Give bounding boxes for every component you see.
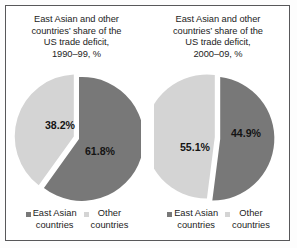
pie-panel-1990-99: East Asian and other countries’ share of…: [6, 6, 148, 240]
panel-title-2000-09: East Asian and other countries’ share of…: [152, 14, 285, 60]
legend-item-east-asian[interactable]: East Asian countries: [167, 208, 218, 231]
title-line-3: US trade deficit,: [10, 37, 143, 49]
legend-label-east-asian: East Asian countries: [174, 208, 218, 231]
square-light-icon: [225, 212, 230, 217]
pie-chart-1990-99: 38.2% 61.8%: [6, 72, 148, 204]
title-line-4: 2000–09, %: [152, 49, 285, 61]
panel-title-1990-99: East Asian and other countries’ share of…: [10, 14, 143, 60]
figure-canvas: East Asian and other countries’ share of…: [0, 0, 297, 248]
legend-label-other: Other countries: [91, 208, 129, 231]
title-line-1: East Asian and other: [10, 14, 143, 26]
legend-item-other[interactable]: Other countries: [84, 208, 129, 231]
pie-svg-1990-99: 38.2% 61.8%: [13, 72, 141, 204]
title-line-4: 1990–99, %: [10, 49, 143, 61]
legend-label-east-asian: East Asian countries: [33, 208, 77, 231]
pie-label-east-asian-2000: 44.9%: [231, 127, 262, 139]
title-line-3: US trade deficit,: [152, 37, 285, 49]
square-light-icon: [84, 212, 89, 217]
legend-item-east-asian[interactable]: East Asian countries: [26, 208, 77, 231]
title-line-1: East Asian and other: [152, 14, 285, 26]
legend-2000-09: East Asian countries Other countries: [151, 208, 287, 231]
pie-slice-other-2000[interactable]: [154, 75, 215, 199]
square-dark-icon: [167, 212, 172, 217]
panel-container: East Asian and other countries’ share of…: [6, 6, 289, 240]
chart-frame: East Asian and other countries’ share of…: [5, 5, 290, 241]
pie-label-other-1990: 38.2%: [45, 119, 76, 131]
title-line-2: countries’ share of the: [152, 26, 285, 38]
square-dark-icon: [26, 212, 31, 217]
pie-svg-2000-09: 55.1% 44.9%: [154, 72, 282, 204]
pie-panel-2000-09: East Asian and other countries’ share of…: [148, 6, 290, 240]
pie-label-east-asian-1990: 61.8%: [85, 145, 116, 157]
legend-item-other[interactable]: Other countries: [225, 208, 270, 231]
title-line-2: countries’ share of the: [10, 26, 143, 38]
legend-1990-99: East Asian countries Other countries: [9, 208, 145, 231]
pie-label-other-2000: 55.1%: [180, 141, 211, 153]
pie-chart-2000-09: 55.1% 44.9%: [148, 72, 290, 204]
legend-label-other: Other countries: [232, 208, 270, 231]
